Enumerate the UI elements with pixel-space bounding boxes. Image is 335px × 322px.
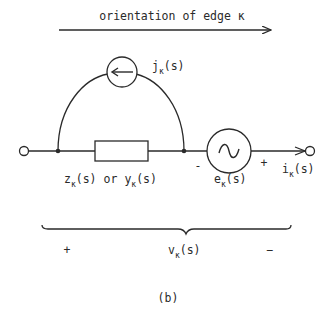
impedance-element: zκ(s)oryκ(s) (64, 141, 157, 189)
impedance-label: zκ(s)oryκ(s) (64, 172, 157, 189)
circuit-diagram: orientation of edge κ jκ(s) z (0, 0, 335, 322)
parallel-branch-left-arc (58, 74, 108, 151)
parallel-branch-right-arc (136, 74, 184, 151)
voltage-brace (42, 225, 291, 234)
voltage-source-minus: - (195, 159, 202, 173)
voltage-source-plus: + (261, 156, 268, 170)
left-junction-dot (56, 149, 61, 154)
current-source: jκ(s) (107, 57, 185, 87)
figure-caption: (b) (158, 291, 179, 305)
orientation-label: orientation of edge κ (99, 9, 244, 23)
left-terminal (20, 147, 29, 156)
branch-current-label: iκ(s) (282, 162, 315, 179)
branch-voltage-plus: + (64, 243, 71, 257)
right-terminal (306, 147, 315, 156)
voltage-source-label: eκ(s) (214, 172, 247, 189)
right-junction-dot (182, 149, 187, 154)
branch-voltage-minus: − (267, 243, 274, 257)
branch-voltage-label: vκ(s) (168, 243, 201, 260)
impedance-box (95, 141, 148, 161)
voltage-source: - + eκ(s) (195, 129, 268, 189)
orientation-arrow: orientation of edge κ (59, 9, 271, 30)
current-source-label: jκ(s) (152, 59, 185, 76)
